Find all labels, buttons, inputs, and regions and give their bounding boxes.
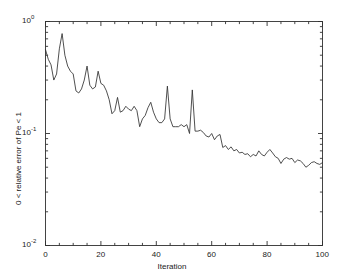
y-axis-title: 0 < relative error of Pe < 1 bbox=[14, 112, 23, 205]
xtick-label-0: 0 bbox=[43, 251, 47, 259]
ytick-label-1: 10-1 bbox=[22, 129, 36, 137]
chart-plot-area bbox=[0, 0, 344, 280]
ytick-label-2: 100 bbox=[22, 17, 34, 25]
xtick-label-3: 60 bbox=[207, 251, 216, 259]
xtick-label-5: 100 bbox=[316, 251, 329, 259]
ytick-label-0: 10-2 bbox=[22, 241, 36, 249]
axes-frame bbox=[46, 22, 323, 246]
xtick-label-1: 20 bbox=[96, 251, 105, 259]
xtick-label-4: 80 bbox=[263, 251, 272, 259]
xtick-label-2: 40 bbox=[152, 251, 161, 259]
figure-canvas: 10-2 10-1 100 0 20 40 60 80 100 Iteratio… bbox=[0, 0, 344, 280]
x-axis-title: Iteration bbox=[0, 262, 344, 271]
